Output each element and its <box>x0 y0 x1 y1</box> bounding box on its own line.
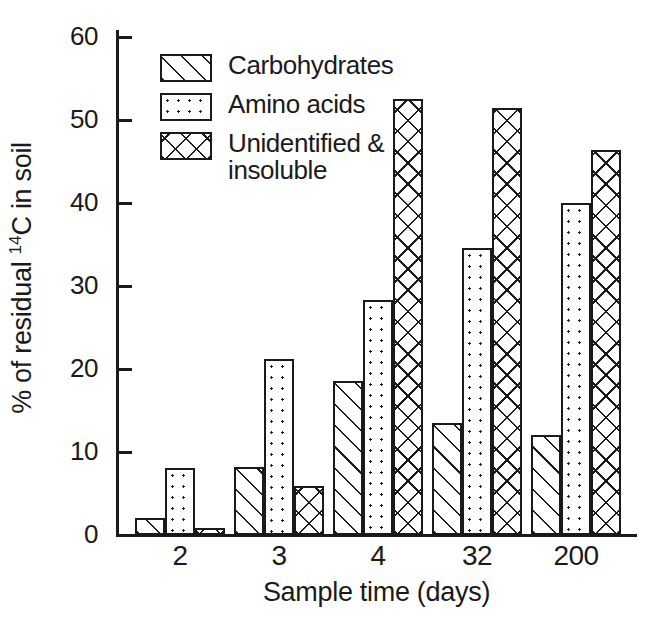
y-axis-tick-label: 30 <box>52 272 98 298</box>
y-axis-title: % of residual 14C in soil <box>6 18 38 538</box>
y-axis-tick-label: 20 <box>52 355 98 381</box>
x-axis-tick-label: 200 <box>511 540 641 572</box>
legend-label: Unidentified & insoluble <box>228 130 384 184</box>
bar-group <box>432 30 522 535</box>
bar <box>591 150 621 535</box>
bar <box>393 99 423 535</box>
bar <box>432 423 462 535</box>
y-axis-title-prefix: % of residual <box>7 254 37 413</box>
bar <box>234 467 264 535</box>
y-axis-tick-label: 0 <box>52 521 98 547</box>
bar <box>561 203 591 535</box>
bar <box>165 468 195 535</box>
chart-legend: CarbohydratesAmino acidsUnidentified & i… <box>160 52 393 193</box>
y-axis-tick-label: 10 <box>52 438 98 464</box>
bar <box>531 435 561 535</box>
bar <box>492 108 522 535</box>
legend-label: Carbohydrates <box>228 52 393 79</box>
bar <box>195 528 225 535</box>
bar-group <box>531 30 621 535</box>
y-axis-title-suffix: C in soil <box>7 142 37 235</box>
bar <box>135 518 165 535</box>
y-axis-tick-label: 50 <box>52 106 98 132</box>
bar <box>462 248 492 535</box>
bar <box>294 486 324 535</box>
bar <box>264 359 294 535</box>
bar <box>333 381 363 535</box>
legend-label: Amino acids <box>228 91 365 118</box>
legend-item: Amino acids <box>160 91 393 121</box>
chart-figure: 0102030405060 % of residual 14C in soil … <box>0 0 651 629</box>
legend-swatch-diagonal-hatch-icon <box>160 54 212 82</box>
legend-swatch-dotted-icon <box>160 93 212 121</box>
y-axis-tick-label: 40 <box>52 189 98 215</box>
legend-swatch-cross-hatch-icon <box>160 132 212 160</box>
y-axis-tick-label: 60 <box>52 23 98 49</box>
y-axis-title-superscript: 14 <box>6 236 25 255</box>
legend-item: Carbohydrates <box>160 52 393 82</box>
x-axis-title: Sample time (days) <box>116 577 637 608</box>
legend-item: Unidentified & insoluble <box>160 130 393 184</box>
bar <box>363 300 393 535</box>
